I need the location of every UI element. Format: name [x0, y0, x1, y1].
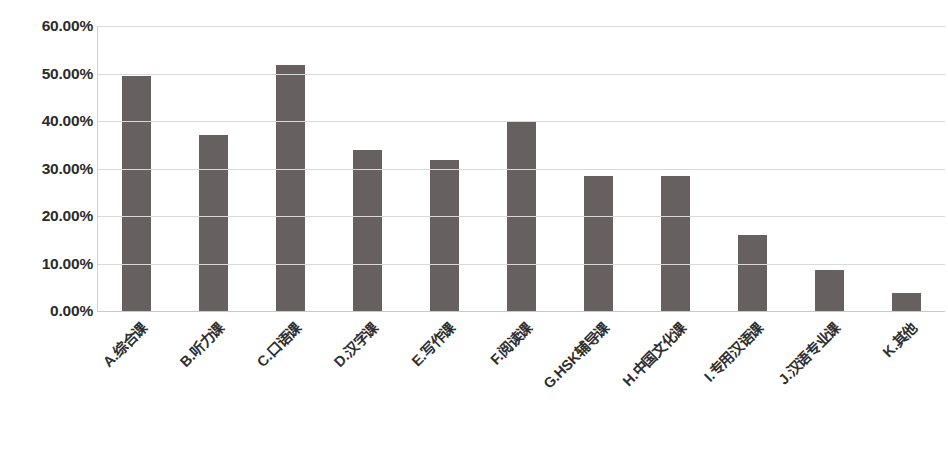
bar[interactable]: [353, 150, 382, 311]
x-slot: C.口语课: [251, 313, 328, 423]
y-tick-label: 30.00%: [0, 160, 93, 178]
y-tick-label: 50.00%: [0, 65, 93, 83]
bar[interactable]: [430, 160, 459, 311]
y-tick-label: 10.00%: [0, 255, 93, 273]
bar[interactable]: [661, 176, 690, 311]
gridline: [98, 74, 945, 75]
gridline: [98, 264, 945, 265]
x-slot: A.综合课: [97, 313, 174, 423]
bar[interactable]: [738, 235, 767, 311]
x-tick-label: B.听力课: [174, 317, 228, 371]
bar[interactable]: [122, 76, 151, 311]
y-axis: 60.00%50.00%40.00%30.00%20.00%10.00%0.00…: [0, 0, 93, 461]
x-tick-label: K.其他: [877, 317, 921, 361]
gridline: [98, 121, 945, 122]
bar[interactable]: [892, 293, 921, 311]
bar[interactable]: [584, 176, 613, 311]
x-tick-label: A.综合课: [97, 317, 151, 371]
x-tick-label: D.汉字课: [328, 317, 382, 371]
x-axis: A.综合课B.听力课C.口语课D.汉字课E.写作课F.阅读课G.HSK辅导课H.…: [97, 313, 945, 423]
figure-caption: [0, 444, 948, 461]
gridline: [98, 26, 945, 27]
gridline: [98, 216, 945, 217]
bar[interactable]: [815, 270, 844, 311]
x-tick-label: E.写作课: [406, 317, 459, 370]
bar[interactable]: [276, 65, 305, 311]
x-slot: K.其他: [868, 313, 945, 423]
x-slot: E.写作课: [405, 313, 482, 423]
y-tick-label: 20.00%: [0, 207, 93, 225]
y-tick-label: 40.00%: [0, 112, 93, 130]
plot-area: [97, 26, 945, 312]
x-slot: D.汉字课: [328, 313, 405, 423]
bar-chart-figure: 60.00%50.00%40.00%30.00%20.00%10.00%0.00…: [0, 0, 948, 461]
y-tick-label: 60.00%: [0, 17, 93, 35]
x-slot: B.听力课: [174, 313, 251, 423]
gridline: [98, 169, 945, 170]
x-tick-label: C.口语课: [251, 317, 305, 371]
bar[interactable]: [199, 135, 228, 311]
x-slot: J.汉语专业课: [791, 313, 868, 423]
y-tick-label: 0.00%: [0, 302, 93, 320]
x-tick-label: F.阅读课: [484, 317, 535, 368]
